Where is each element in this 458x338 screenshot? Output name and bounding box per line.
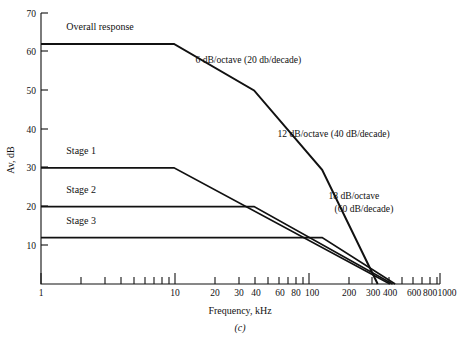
x-tick-label: 10 [170,288,180,298]
bode-plot-svg: 70 60 50 40 30 20 10 Av, dB [0,0,458,338]
y-tick-label: 10 [27,241,37,251]
x-tick-label: 300 [366,288,381,298]
bode-plot-figure: 70 60 50 40 30 20 10 Av, dB [0,0,458,338]
series-label-stage-3: Stage 3 [66,215,96,226]
x-tick-label: 30 [234,288,244,298]
x-tick-label: 800 [423,288,438,298]
x-tick-label: 1 [39,288,44,298]
y-axis-ticks [41,13,48,245]
x-tick-label: 400 [383,288,398,298]
y-tick-label: 50 [27,86,37,96]
x-tick-label: 1000 [438,288,457,298]
y-axis-labels: 70 60 50 40 30 20 10 [27,9,37,251]
annotation-slope-6db: 6 dB/octave (20 db/decade) [195,54,301,66]
annotation-slope-18db-line2: (60 dB/decade) [334,203,393,215]
y-tick-label: 70 [27,9,37,19]
series-label-stage-2: Stage 2 [66,184,96,195]
series-label-overall-response: Overall response [66,21,134,32]
x-tick-label: 600 [407,288,422,298]
x-tick-label: 40 [251,288,261,298]
x-tick-label: 20 [210,288,220,298]
y-tick-label: 20 [27,202,37,212]
x-tick-label: 60 [275,288,285,298]
x-axis-title: Frequency, kHz [208,305,272,316]
curve-stage-3 [41,238,395,284]
y-axis-title: Av, dB [5,146,16,174]
y-tick-label: 60 [27,47,37,57]
y-tick-label: 40 [27,125,37,135]
x-axis-labels: 1 10 20 30 40 60 80 100 200 300 400 600 … [39,288,457,298]
annotation-slope-12db: 12 dB/octave (40 dB/decade) [277,128,389,140]
x-tick-label: 80 [291,288,301,298]
figure-caption: (c) [234,322,246,334]
annotation-slope-18db-line1: 18 dB/octave [328,190,379,201]
x-tick-label: 100 [305,288,320,298]
x-tick-label: 200 [342,288,357,298]
y-tick-label: 30 [27,163,37,173]
series-label-stage-1: Stage 1 [66,145,96,156]
